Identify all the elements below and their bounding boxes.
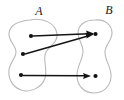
set-b-blob bbox=[77, 20, 112, 93]
set-a-blob bbox=[9, 19, 57, 91]
arrow-a1-to-b1 bbox=[33, 30, 94, 36]
set-b-element-2 bbox=[93, 74, 97, 78]
arrow-a3-to-b2 bbox=[23, 73, 91, 79]
set-a-element-3 bbox=[19, 73, 23, 77]
diagram-canvas: A B bbox=[0, 0, 124, 100]
set-mapping-diagram: A B bbox=[0, 0, 124, 100]
set-b-label: B bbox=[105, 3, 113, 17]
set-a-element-1 bbox=[29, 34, 33, 38]
set-a-label: A bbox=[34, 4, 43, 18]
set-b-element-1 bbox=[93, 32, 97, 36]
set-a-element-2 bbox=[21, 52, 25, 56]
